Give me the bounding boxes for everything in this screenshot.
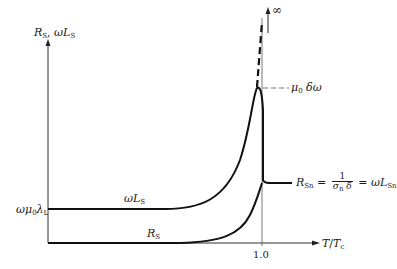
infinity-arrow-icon: [266, 7, 271, 14]
x-tick-1: 1.0: [253, 250, 269, 260]
y-axis-label: RS, ωLS: [34, 27, 75, 40]
x-axis-label: T/Tc: [322, 238, 344, 251]
fraction: 1σn δ: [332, 172, 353, 194]
normal-state-label: RSn = 1σn δ = ωLSn: [296, 172, 397, 194]
y-axis-arrow-icon: [46, 39, 51, 46]
wLs-curve-label: ωLS: [124, 193, 145, 206]
wLs-curve: [48, 88, 292, 209]
peak-label: μ0 δω: [291, 82, 322, 95]
Rs-curve-label: RS: [147, 228, 160, 241]
y-tick-label: ωμ0λL: [16, 204, 48, 217]
wLs-divergence-dashed: [257, 22, 262, 87]
infinity-label: ∞: [272, 4, 282, 16]
x-axis-arrow-icon: [312, 241, 320, 246]
